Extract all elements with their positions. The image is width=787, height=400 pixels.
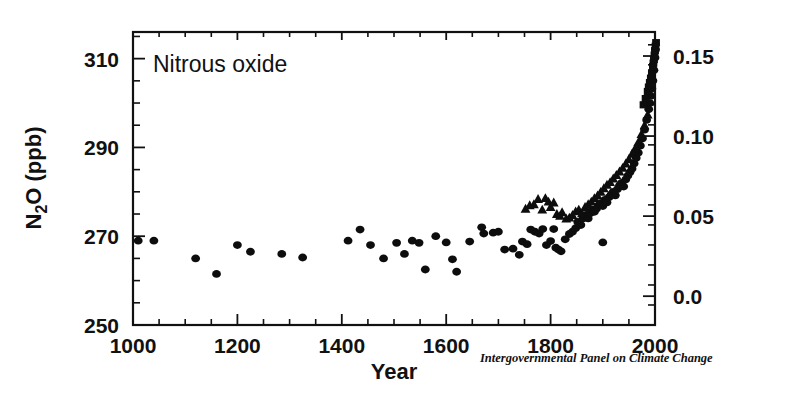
y-tick-label: 310 [84,48,119,71]
data-point [431,232,440,240]
x-tick-label: 1200 [214,334,261,357]
data-point [392,239,401,247]
data-point [494,228,503,236]
data-point [640,101,648,108]
data-point [400,250,409,258]
panel-title: Nitrous oxide [153,51,287,77]
y-axis-left-title: N2O (ppb) [21,127,50,230]
data-point [619,183,628,191]
data-point [379,255,388,263]
data-point [344,237,353,245]
y2-tick-label: 0.10 [673,125,714,148]
data-point [415,239,424,247]
x-tick-label: 1000 [110,334,157,357]
data-point [500,246,509,254]
x-tick-label: 1600 [423,334,470,357]
y2-tick-label: 0.05 [673,205,714,228]
data-point [277,250,286,258]
chart-credit: Intergovernmental Panel on Climate Chang… [479,351,713,365]
data-point [246,248,255,256]
data-point [149,237,158,245]
data-point [523,240,532,248]
figure-container: 100012001400160018002000 310290270250 0.… [0,0,787,400]
x-tick-label: 1400 [318,334,365,357]
data-point [233,241,242,249]
data-point [642,95,650,102]
data-point [557,247,566,255]
data-point [479,230,488,238]
data-point [465,238,474,246]
y-tick-label: 290 [84,136,119,159]
y2-tick-label: 0.0 [673,285,702,308]
nitrous-oxide-chart: 100012001400160018002000 310290270250 0.… [0,0,787,400]
data-point [546,237,555,245]
x-axis-title: Year [371,359,418,384]
y-tick-label: 270 [84,225,119,248]
data-point [191,255,200,263]
data-point [448,255,457,263]
y2-tick-label: 0.15 [673,45,714,68]
data-point [298,254,307,262]
data-point [366,241,375,249]
data-point [515,251,524,259]
data-point [356,226,365,234]
data-point [442,239,451,247]
y-tick-label: 250 [84,314,119,337]
data-point [134,237,143,245]
data-point [509,245,518,253]
data-point [452,268,461,276]
data-point [598,239,607,247]
data-point [648,69,656,76]
data-point [576,221,585,229]
data-point [421,266,430,274]
data-point [549,225,558,233]
data-point [538,225,547,233]
data-point [652,39,660,46]
data-point [212,270,221,278]
